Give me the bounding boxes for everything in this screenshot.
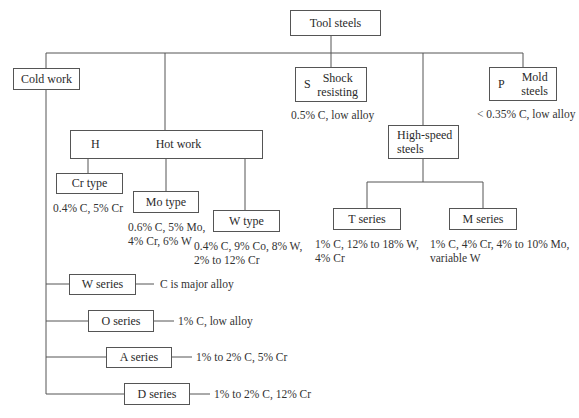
shock-resisting-note: 0.5% C, low alloy (291, 108, 374, 122)
node-label: Shock resisting (317, 71, 358, 99)
grade-letter: H (91, 137, 100, 152)
node-w-series: W series (69, 274, 136, 295)
w-type-note: 0.4% C, 9% Co, 8% W, 2% to 12% Cr (194, 239, 302, 267)
node-o-series: O series (88, 310, 154, 332)
node-a-series: A series (106, 347, 172, 368)
node-hot-work: H Hot work (70, 130, 263, 159)
node-cold-work: Cold work (13, 68, 80, 90)
node-label: Tool steels (310, 16, 362, 31)
node-mo-type: Mo type (133, 191, 199, 213)
node-m-series: M series (449, 208, 517, 230)
grade-letter: P (498, 77, 505, 92)
node-d-series: D series (124, 383, 190, 405)
node-label: Cold work (21, 72, 72, 87)
w-series-note: C is major alloy (160, 277, 234, 291)
t-series-note: 1% C, 12% to 18% W, 4% Cr (315, 237, 419, 265)
node-shock-resisting: S Shock resisting (295, 67, 367, 102)
node-label: Hot work (156, 137, 202, 152)
node-label: Mold steels (521, 70, 548, 98)
node-t-series: T series (333, 208, 401, 230)
a-series-note: 1% to 2% C, 5% Cr (196, 350, 287, 364)
node-tool-steels: Tool steels (290, 10, 381, 36)
m-series-note: 1% C, 4% Cr, 4% to 10% Mo, variable W (430, 237, 569, 265)
node-w-type: W type (213, 210, 280, 232)
node-label: High-speed steels (397, 128, 452, 156)
o-series-note: 1% C, low alloy (178, 314, 253, 328)
d-series-note: 1% to 2% C, 12% Cr (214, 387, 311, 401)
grade-letter: S (304, 77, 311, 92)
mold-steels-note: < 0.35% C, low alloy (477, 107, 575, 121)
node-high-speed-steels: High-speed steels (388, 125, 459, 159)
cr-type-note: 0.4% C, 5% Cr (53, 201, 123, 215)
node-cr-type: Cr type (56, 173, 123, 194)
node-mold-steels: P Mold steels (489, 67, 557, 101)
